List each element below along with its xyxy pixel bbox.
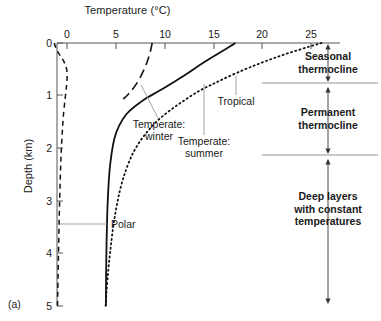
zone-label-seasonal-thermocline: Seasonal thermocline (280, 50, 376, 75)
x-tick-label-25: 25 (305, 28, 317, 40)
zone-label-permanent-thermocline: Permanent thermocline (280, 106, 376, 131)
curve-label-tropical: Tropical (210, 95, 262, 107)
y-tick-label-3: 3 (46, 195, 52, 207)
curve-temperate-winter (123, 43, 152, 99)
x-tick-label-0: 0 (64, 28, 70, 40)
y-axis-title: Depth (km) (22, 126, 34, 206)
curve-label-temperate-summer: Temperate: summer (166, 135, 242, 159)
x-tick-label-5: 5 (113, 28, 119, 40)
curve-label-temperate-summer-line2: summer (166, 147, 242, 159)
temperature-depth-profile-figure: Temperature (°C) (0, 0, 381, 321)
plot-svg (0, 0, 381, 321)
zone-label-permanent-line2: thermocline (280, 119, 376, 132)
zone-label-seasonal-line1: Seasonal (280, 50, 376, 63)
curve-label-temperate-winter-line1: Temperate: (121, 118, 197, 130)
panel-label: (a) (8, 298, 21, 310)
y-tick-label-0: 0 (46, 37, 52, 49)
x-tick-label-10: 10 (159, 28, 171, 40)
x-tick-label-20: 20 (256, 28, 268, 40)
x-axis-ticks (67, 43, 311, 49)
zone-label-deep-layers: Deep layers with constant temperatures (272, 190, 381, 228)
y-tick-label-2: 2 (46, 142, 52, 154)
x-tick-label-15: 15 (208, 28, 220, 40)
curve-tropical (106, 43, 322, 306)
zone-label-deep-line2: with constant (272, 203, 381, 216)
zone-label-deep-line1: Deep layers (272, 190, 381, 203)
curve-label-polar: Polar (111, 218, 151, 230)
zone-label-seasonal-line2: thermocline (280, 63, 376, 76)
y-tick-label-4: 4 (46, 247, 52, 259)
y-tick-label-5: 5 (46, 300, 52, 312)
curve-polar (54, 43, 67, 306)
curve-label-temperate-summer-line1: Temperate: (166, 135, 242, 147)
zone-label-permanent-line1: Permanent (280, 106, 376, 119)
zone-label-deep-line3: temperatures (272, 215, 381, 228)
axis-lines (57, 43, 340, 306)
y-tick-label-1: 1 (46, 89, 52, 101)
